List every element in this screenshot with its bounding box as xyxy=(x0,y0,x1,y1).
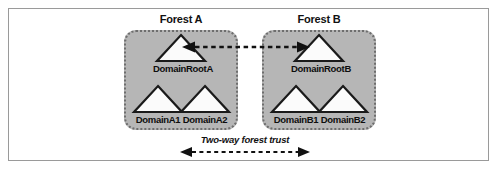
forest-b-title: Forest B xyxy=(262,13,376,25)
domain-node-root-b-label: DomainRootB xyxy=(291,63,347,74)
triangle-icon xyxy=(315,84,371,114)
domain-node-a2-label: DomainA2 xyxy=(177,114,233,125)
forest-a-title: Forest A xyxy=(124,13,238,25)
forest-to-forest-trust-arrow xyxy=(180,146,310,158)
domain-node-b2[interactable]: DomainB2 xyxy=(315,84,371,125)
diagram-canvas: Forest A DomainRootA DomainA1 DomainA2 F… xyxy=(0,0,500,170)
triangle-icon xyxy=(177,84,233,114)
domain-node-root-a-label: DomainRootA xyxy=(153,63,209,74)
trust-caption-label: Two-way forest trust xyxy=(180,134,310,145)
domain-node-a2[interactable]: DomainA2 xyxy=(177,84,233,125)
domain-node-b2-label: DomainB2 xyxy=(315,114,371,125)
root-to-root-trust-arrow xyxy=(182,40,310,54)
